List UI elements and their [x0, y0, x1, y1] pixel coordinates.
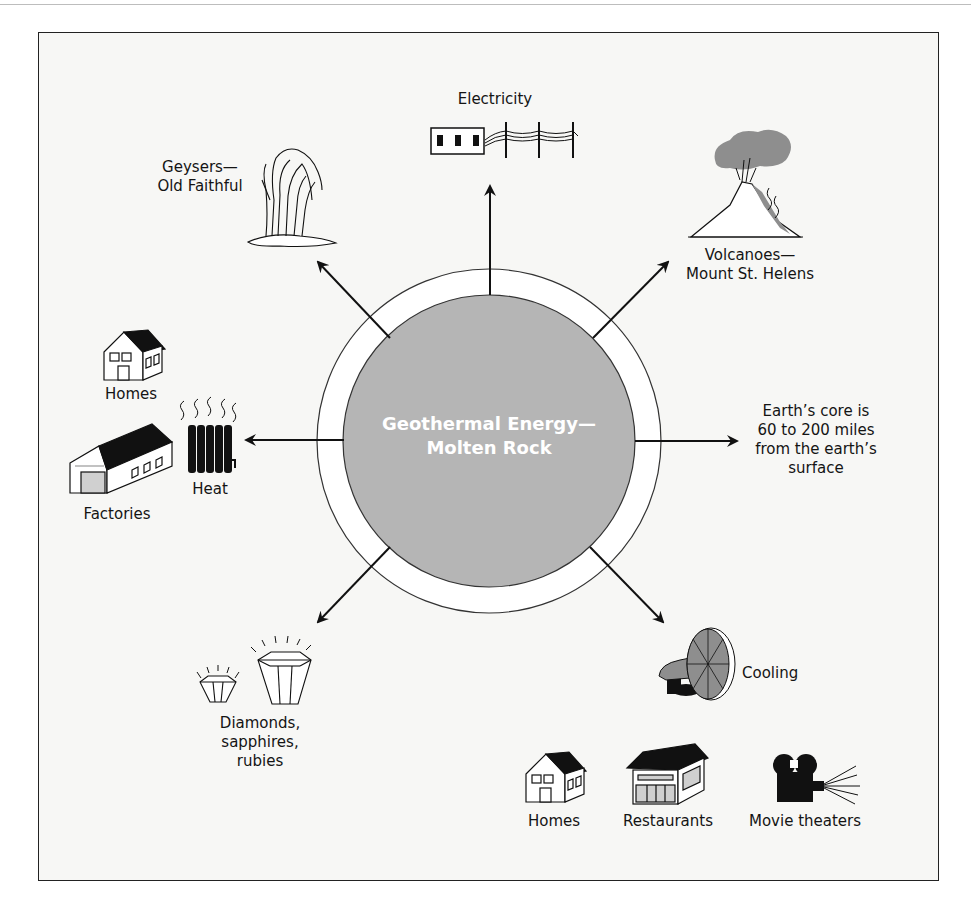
volcanoes-label-line1: Volcanoes—: [670, 246, 830, 265]
arrow-up-left: [318, 262, 390, 338]
gems-label-line1: Diamonds,: [205, 714, 315, 733]
center-title-line1: Geothermal Energy—: [339, 412, 639, 436]
movie-theaters-label: Movie theaters: [738, 812, 872, 831]
gems-label-line3: rubies: [205, 752, 315, 771]
radiator-icon: [180, 397, 236, 473]
geysers-label: Geysers— Old Faithful: [140, 158, 260, 196]
factory-icon: [70, 424, 172, 493]
heat-label: Heat: [182, 480, 238, 499]
volcanoes-label-line2: Mount St. Helens: [670, 265, 830, 284]
power-line-icon: [431, 122, 578, 158]
core-depth-line2: 60 to 200 miles: [746, 421, 886, 440]
core-depth-line1: Earth’s core is: [746, 402, 886, 421]
core-depth-line3: from the earth’s: [746, 440, 886, 459]
cooling-homes-label: Homes: [518, 812, 590, 831]
cooling-label: Cooling: [742, 664, 812, 683]
volcanoes-label: Volcanoes— Mount St. Helens: [670, 246, 830, 284]
restaurant-icon: [627, 744, 708, 804]
geyser-icon: [248, 149, 336, 247]
factories-label: Factories: [72, 505, 162, 524]
arrow-up-right: [593, 262, 668, 338]
center-title-line2: Molten Rock: [339, 436, 639, 460]
heat-homes-label: Homes: [96, 385, 166, 404]
geysers-label-line2: Old Faithful: [140, 177, 260, 196]
gem-icon: [197, 636, 311, 704]
electricity-label: Electricity: [440, 90, 550, 109]
house-icon: [104, 330, 165, 380]
fan-icon: [659, 628, 735, 700]
gems-label-line2: sapphires,: [205, 733, 315, 752]
center-title: Geothermal Energy— Molten Rock: [339, 412, 639, 460]
restaurants-label: Restaurants: [615, 812, 721, 831]
geysers-label-line1: Geysers—: [140, 158, 260, 177]
core-depth-label: Earth’s core is 60 to 200 miles from the…: [746, 402, 886, 478]
gems-label: Diamonds, sapphires, rubies: [205, 714, 315, 771]
arrow-down-right: [590, 547, 663, 622]
core-depth-line4: surface: [746, 459, 886, 478]
house-icon: [526, 752, 586, 802]
movie-camera-icon: [773, 754, 860, 804]
volcano-icon: [688, 130, 803, 237]
arrow-down-left: [318, 547, 390, 622]
